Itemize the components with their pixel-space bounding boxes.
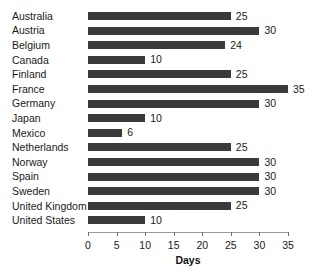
bar-fill	[88, 56, 145, 64]
bar-row: Australia25	[0, 9, 313, 24]
bar-row: Norway30	[0, 155, 313, 170]
bar-fill	[88, 85, 288, 93]
x-tick-label: 20	[196, 239, 208, 251]
bar[interactable]: 25	[88, 12, 231, 20]
bar-fill	[88, 41, 225, 49]
bar[interactable]: 10	[88, 56, 145, 64]
bar-fill	[88, 143, 231, 151]
x-tick-label: 30	[254, 239, 266, 251]
bar-value-label: 10	[150, 114, 162, 123]
category-label: Norway	[12, 155, 48, 170]
category-label: Austria	[12, 23, 45, 38]
bar-row: Austria30	[0, 23, 313, 38]
x-tick-label: 15	[168, 239, 180, 251]
bar-row: Spain30	[0, 169, 313, 184]
bar-row: Mexico6	[0, 126, 313, 141]
bar[interactable]: 30	[88, 173, 259, 181]
bar-value-label: 6	[127, 128, 133, 137]
bar[interactable]: 25	[88, 70, 231, 78]
x-axis-title: Days	[88, 254, 288, 266]
bar-row: Netherlands25	[0, 140, 313, 155]
bar-row: Japan10	[0, 111, 313, 126]
category-label: Finland	[12, 67, 46, 82]
bar-value-label: 35	[293, 85, 305, 94]
bar[interactable]: 10	[88, 114, 145, 122]
x-axis-line	[88, 232, 288, 233]
category-label: United States	[12, 213, 75, 228]
x-tick-label: 35	[282, 239, 294, 251]
bar[interactable]: 25	[88, 202, 231, 210]
bar-value-label: 25	[236, 70, 248, 79]
bar-value-label: 30	[264, 158, 276, 167]
bar-row: United States10	[0, 213, 313, 228]
bar-fill	[88, 216, 145, 224]
x-tick	[259, 232, 260, 236]
x-tick-label: 5	[114, 239, 120, 251]
bar-value-label: 10	[150, 55, 162, 64]
bar-value-label: 30	[264, 26, 276, 35]
bar[interactable]: 30	[88, 158, 259, 166]
category-label: Japan	[12, 111, 41, 126]
bar-row: Belgium24	[0, 38, 313, 53]
bar-fill	[88, 129, 122, 137]
category-label: Sweden	[12, 184, 50, 199]
category-label: Belgium	[12, 38, 50, 53]
category-label: Spain	[12, 169, 39, 184]
category-label: Mexico	[12, 126, 45, 141]
bar[interactable]: 30	[88, 100, 259, 108]
bar-row: Canada10	[0, 53, 313, 68]
bar[interactable]: 35	[88, 85, 288, 93]
bar-chart: Australia25Austria30Belgium24Canada10Fin…	[0, 0, 313, 273]
bar[interactable]: 6	[88, 129, 122, 137]
bar-value-label: 25	[236, 143, 248, 152]
category-label: Germany	[12, 96, 55, 111]
bar[interactable]: 30	[88, 27, 259, 35]
bar-fill	[88, 114, 145, 122]
bar-fill	[88, 100, 259, 108]
bar-row: Finland25	[0, 67, 313, 82]
x-tick-label: 25	[225, 239, 237, 251]
x-tick	[231, 232, 232, 236]
bar-row: Germany30	[0, 96, 313, 111]
x-tick	[145, 232, 146, 236]
bar[interactable]: 30	[88, 187, 259, 195]
x-tick	[88, 232, 89, 236]
x-tick-label: 10	[139, 239, 151, 251]
bar-row: France35	[0, 82, 313, 97]
bar[interactable]: 10	[88, 216, 145, 224]
bar-row: United Kingdom25	[0, 199, 313, 214]
bar[interactable]: 24	[88, 41, 225, 49]
bar-value-label: 30	[264, 187, 276, 196]
bar-fill	[88, 70, 231, 78]
bar-fill	[88, 12, 231, 20]
bar-value-label: 24	[230, 41, 242, 50]
category-label: France	[12, 82, 45, 97]
bar-value-label: 10	[150, 216, 162, 225]
bar[interactable]: 25	[88, 143, 231, 151]
bar-fill	[88, 187, 259, 195]
bar-fill	[88, 27, 259, 35]
bar-fill	[88, 158, 259, 166]
x-tick-label: 0	[85, 239, 91, 251]
x-tick	[174, 232, 175, 236]
x-tick	[288, 232, 289, 236]
category-label: Netherlands	[12, 140, 69, 155]
bar-value-label: 25	[236, 201, 248, 210]
x-tick	[202, 232, 203, 236]
category-label: United Kingdom	[12, 199, 87, 214]
bar-value-label: 25	[236, 12, 248, 21]
bar-value-label: 30	[264, 99, 276, 108]
category-label: Canada	[12, 53, 49, 68]
bar-fill	[88, 173, 259, 181]
x-tick	[117, 232, 118, 236]
category-label: Australia	[12, 9, 53, 24]
bar-fill	[88, 202, 231, 210]
bar-value-label: 30	[264, 172, 276, 181]
bar-row: Sweden30	[0, 184, 313, 199]
